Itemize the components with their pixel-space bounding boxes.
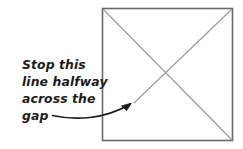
annotation-line-4: gap bbox=[22, 108, 48, 123]
annotation-line-1: Stop this bbox=[22, 57, 86, 72]
diagram-svg: Stop this line halfway across the gap bbox=[0, 0, 243, 149]
sketch-canvas: Stop this line halfway across the gap bbox=[0, 0, 243, 149]
annotation-line-2: line halfway bbox=[22, 74, 108, 89]
annotation-line-3: across the bbox=[22, 91, 96, 106]
